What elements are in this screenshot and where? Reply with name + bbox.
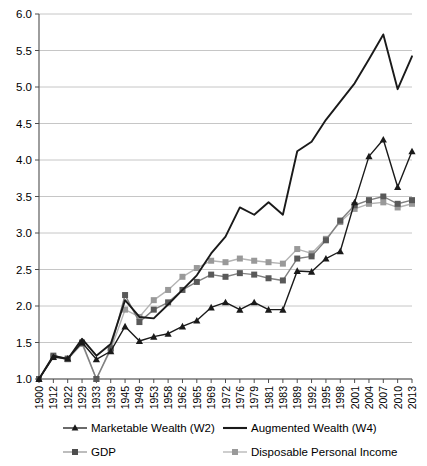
y-tick-label: 5.5 [16, 45, 32, 57]
legend-label-disposable-personal-income: Disposable Personal Income [251, 445, 397, 459]
x-tick-label: 1949 [133, 386, 145, 410]
x-tick-label: 1969 [205, 386, 217, 410]
chart-legend: Marketable Wealth (W2) Augmented Wealth … [0, 414, 427, 466]
data-point-marker [165, 330, 172, 337]
data-point-marker [280, 277, 286, 283]
data-point-marker [194, 265, 200, 271]
x-tick-label: 2001 [349, 386, 361, 410]
legend-item-augmented-wealth[interactable]: Augmented Wealth (W4) [222, 418, 377, 438]
data-point-marker [223, 259, 229, 265]
data-point-marker [309, 253, 315, 259]
x-tick-label: 1958 [162, 386, 174, 410]
data-point-marker [222, 299, 229, 306]
data-point-marker [93, 376, 99, 382]
data-point-marker [251, 272, 257, 278]
data-point-marker [194, 279, 200, 285]
data-point-marker [394, 183, 401, 190]
y-tick-label: 1.0 [16, 373, 32, 385]
x-tick-label: 1945 [119, 386, 131, 410]
chart-plot-area: 1.01.52.02.53.03.54.04.55.05.56.01900191… [0, 0, 427, 412]
x-tick-label: 1912 [47, 386, 59, 410]
data-point-marker [121, 323, 128, 330]
legend-label-augmented-wealth: Augmented Wealth (W4) [251, 421, 377, 435]
data-point-marker [380, 199, 386, 205]
x-tick-label: 1992 [306, 386, 318, 410]
x-tick-label: 1929 [76, 386, 88, 410]
x-tick-label: 1981 [263, 386, 275, 410]
data-point-marker [266, 275, 272, 281]
data-point-marker [322, 255, 329, 262]
y-tick-label: 6.0 [16, 8, 32, 20]
x-tick-label: 1900 [33, 386, 45, 410]
legend-marker-square-light-icon [222, 445, 248, 459]
y-tick-label: 4.0 [16, 154, 32, 166]
y-tick-label: 2.5 [16, 264, 32, 276]
data-point-marker [251, 258, 257, 264]
x-tick-label: 1995 [320, 386, 332, 410]
y-tick-label: 2.0 [16, 300, 32, 312]
data-point-marker [409, 197, 415, 203]
x-tick-label: 1979 [248, 386, 260, 410]
x-tick-label: 1965 [191, 386, 203, 410]
legend-row-1: Marketable Wealth (W2) Augmented Wealth … [0, 416, 427, 440]
data-point-marker [208, 272, 214, 278]
data-point-marker [294, 246, 300, 252]
data-point-marker [266, 259, 272, 265]
y-tick-label: 3.0 [16, 227, 32, 239]
data-point-marker [151, 307, 157, 313]
data-point-marker [380, 194, 386, 200]
x-tick-label: 1953 [148, 386, 160, 410]
legend-row-2: GDP Disposable Personal Income [0, 440, 427, 464]
x-tick-label: 2004 [363, 386, 375, 410]
data-point-marker [237, 270, 243, 276]
data-point-marker [351, 199, 358, 206]
legend-item-gdp[interactable]: GDP [62, 442, 116, 462]
data-point-marker [337, 218, 343, 224]
legend-marker-line-icon [222, 421, 248, 435]
series-line [39, 197, 412, 380]
x-tick-label: 1972 [220, 386, 232, 410]
legend-label-marketable-wealth: Marketable Wealth (W2) [91, 421, 215, 435]
legend-label-gdp: GDP [91, 445, 116, 459]
data-point-marker [179, 274, 185, 280]
data-point-marker [151, 297, 157, 303]
data-point-marker [208, 258, 214, 264]
x-tick-label: 1998 [334, 386, 346, 410]
x-tick-label: 1933 [90, 386, 102, 410]
data-point-marker [237, 256, 243, 262]
x-tick-label: 1976 [234, 386, 246, 410]
x-tick-label: 2013 [406, 386, 418, 410]
data-point-marker [236, 306, 243, 313]
data-point-marker [395, 201, 401, 207]
data-point-marker [337, 248, 344, 255]
legend-item-marketable-wealth[interactable]: Marketable Wealth (W2) [62, 418, 215, 438]
data-point-marker [251, 299, 258, 306]
x-tick-label: 1962 [176, 386, 188, 410]
data-point-marker [323, 237, 329, 243]
legend-marker-triangle-icon [62, 421, 88, 435]
x-tick-label: 1989 [291, 386, 303, 410]
data-point-marker [280, 261, 286, 267]
data-point-marker [408, 148, 415, 155]
y-tick-label: 3.5 [16, 191, 32, 203]
x-tick-label: 1922 [62, 386, 74, 410]
x-tick-label: 1939 [105, 386, 117, 410]
data-point-marker [136, 319, 142, 325]
x-tick-label: 1983 [277, 386, 289, 410]
line-chart: 1.01.52.02.53.03.54.04.55.05.56.01900191… [0, 0, 427, 412]
x-tick-label: 2007 [377, 386, 389, 410]
data-point-marker [380, 136, 387, 143]
legend-marker-square-dark-icon [62, 445, 88, 459]
data-point-marker [223, 274, 229, 280]
legend-item-disposable-personal-income[interactable]: Disposable Personal Income [222, 442, 397, 462]
y-tick-label: 5.0 [16, 81, 32, 93]
data-point-marker [165, 287, 171, 293]
y-tick-label: 1.5 [16, 337, 32, 349]
y-tick-label: 4.5 [16, 118, 32, 130]
chart-page: 1.01.52.02.53.03.54.04.55.05.56.01900191… [0, 0, 427, 466]
data-point-marker [122, 292, 128, 298]
data-point-marker [366, 197, 372, 203]
data-point-marker [294, 256, 300, 262]
x-tick-label: 2010 [392, 386, 404, 410]
